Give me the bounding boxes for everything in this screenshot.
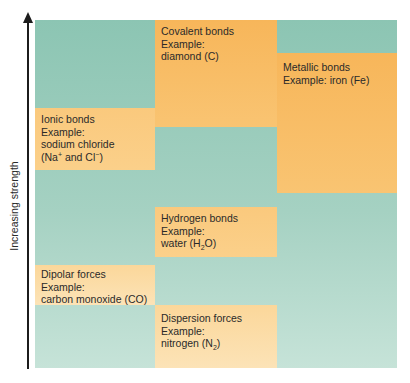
dipolar-forces-block: Dipolar forces Example: carbon monoxide …	[35, 265, 155, 305]
block-example: nitrogen (N2)	[161, 337, 271, 350]
block-example-line: Example: iron (Fe)	[283, 74, 391, 87]
block-example: diamond (C)	[161, 50, 271, 63]
block-example-label: Example:	[41, 281, 149, 294]
block-example-label: Example:	[161, 38, 271, 51]
block-example: water (H2O)	[161, 237, 271, 250]
block-example-label: Example:	[161, 325, 271, 338]
block-title: Ionic bonds	[41, 113, 149, 126]
dispersion-forces-block: Dispersion forces Example: nitrogen (N2)	[155, 305, 277, 368]
strength-axis	[27, 16, 29, 369]
covalent-bonds-block: Covalent bonds Example: diamond (C)	[155, 20, 277, 127]
block-title: Dipolar forces	[41, 268, 149, 281]
block-example: carbon monoxide (CO)	[41, 293, 149, 306]
block-title: Hydrogen bonds	[161, 212, 271, 225]
block-example: sodium chloride	[41, 138, 149, 151]
ionic-bonds-block: Ionic bonds Example: sodium chloride (Na…	[35, 108, 155, 170]
axis-label: Increasing strength	[8, 161, 20, 250]
block-title: Metallic bonds	[283, 61, 391, 74]
block-example-label: Example:	[161, 225, 271, 238]
hydrogen-bonds-block: Hydrogen bonds Example: water (H2O)	[155, 207, 277, 257]
block-title: Dispersion forces	[161, 312, 271, 325]
block-title: Covalent bonds	[161, 25, 271, 38]
block-example-label: Example:	[41, 126, 149, 139]
bond-strength-grid: Covalent bonds Example: diamond (C) Meta…	[35, 20, 397, 368]
metallic-bonds-block: Metallic bonds Example: iron (Fe)	[277, 53, 397, 193]
block-example-ions: (Na+ and Cl−)	[41, 151, 149, 164]
